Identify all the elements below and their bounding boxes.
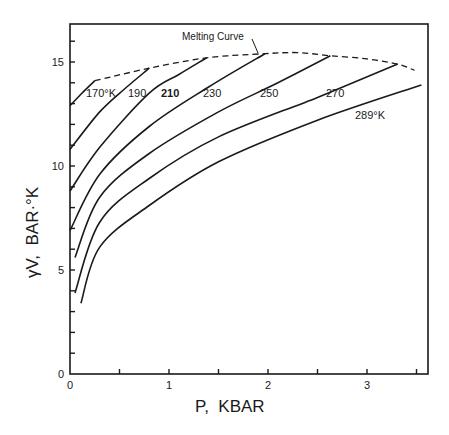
isotherm-curves — [70, 54, 421, 304]
y-tick-labels: 051015 — [52, 56, 64, 380]
curve-label-230: 230 — [203, 87, 221, 99]
melting-curve-label: Melting Curve — [182, 31, 244, 42]
plot-frame — [70, 24, 428, 374]
curve-label-210: 210 — [161, 87, 179, 99]
x-tick-label: 0 — [67, 379, 73, 391]
curve-label-190: 190 — [128, 87, 146, 99]
y-tick-label: 15 — [52, 56, 64, 68]
curve-label-289: 289°K — [355, 109, 386, 121]
y-tick-label: 10 — [52, 160, 64, 172]
curve-label-250: 250 — [260, 87, 278, 99]
y-tick-label: 5 — [58, 264, 64, 276]
curve-label-270: 270 — [326, 87, 344, 99]
x-tick-labels: 0123 — [67, 379, 370, 391]
isotherm-270 — [75, 64, 398, 293]
y-axis-title: γV, BAR·°K — [23, 186, 42, 278]
x-axis-title: P, KBAR — [195, 397, 265, 416]
curve-label-170: 170°K — [86, 87, 117, 99]
y-tick-label: 0 — [58, 368, 64, 380]
x-tick-label: 2 — [265, 379, 271, 391]
x-tick-label: 1 — [166, 379, 172, 391]
x-tick-label: 3 — [364, 379, 370, 391]
melting-curve-leader — [252, 39, 258, 53]
chart-canvas: Melting Curve 170°K 190 210 230 250 270 … — [0, 0, 449, 435]
